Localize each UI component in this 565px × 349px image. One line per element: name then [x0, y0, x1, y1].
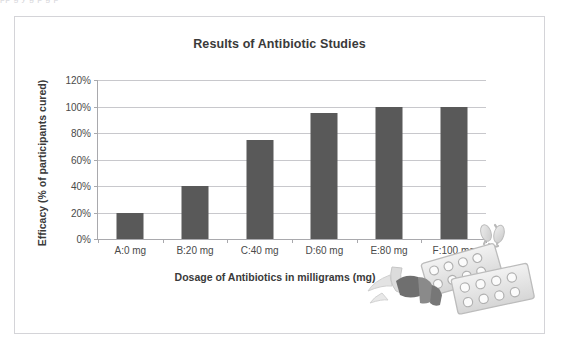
x-tick-label: D:60 mg [292, 245, 357, 256]
bar-slot [227, 80, 292, 239]
y-tick-label: 120% [65, 75, 91, 86]
bar [311, 113, 338, 239]
bar-series [98, 80, 486, 239]
bar [440, 107, 467, 240]
bar-slot [357, 80, 422, 239]
y-tick-label: 80% [71, 128, 91, 139]
x-tick-mark [227, 239, 228, 243]
cropped-text: pp g y g p g p [0, 0, 59, 3]
bar-slot [98, 80, 163, 239]
y-tick-mark [94, 80, 98, 81]
y-tick-mark [94, 107, 98, 108]
bar [376, 107, 403, 240]
x-tick-label: A:0 mg [98, 245, 163, 256]
bar [246, 140, 273, 239]
x-tick-mark [292, 239, 293, 243]
x-tick-label: B:20 mg [163, 245, 228, 256]
bar-slot [163, 80, 228, 239]
x-tick-label: F:100 mg [421, 245, 486, 256]
plot-area: 0%20%40%60%80%100%120% [98, 80, 486, 239]
x-tick-mark [163, 239, 164, 243]
bar-slot [292, 80, 357, 239]
chart-title: Results of Antibiotic Studies [15, 37, 544, 51]
y-tick-label: 0% [77, 234, 91, 245]
y-tick-label: 100% [65, 101, 91, 112]
bar [182, 186, 209, 239]
y-tick-mark [94, 160, 98, 161]
x-tick-mark [98, 239, 99, 243]
y-axis-title: Efficacy (% of participants cured) [36, 76, 48, 251]
y-tick-mark [94, 213, 98, 214]
y-tick-mark [94, 186, 98, 187]
y-tick-label: 20% [71, 207, 91, 218]
x-tick-mark [357, 239, 358, 243]
chart-container: Results of Antibiotic Studies Efficacy (… [14, 16, 545, 334]
y-tick-label: 60% [71, 154, 91, 165]
cropped-text-sliver: pp g y g p g p [0, 0, 565, 10]
x-tick-label: C:40 mg [227, 245, 292, 256]
y-tick-label: 40% [71, 181, 91, 192]
x-axis-tick-labels: A:0 mgB:20 mgC:40 mgD:60 mgE:80 mgF:100 … [98, 245, 486, 256]
x-tick-mark [421, 239, 422, 243]
bar-slot [421, 80, 486, 239]
x-tick-mark [486, 239, 487, 243]
x-axis-title: Dosage of Antibiotics in milligrams (mg) [75, 271, 475, 283]
bar [117, 213, 144, 240]
y-tick-mark [94, 133, 98, 134]
x-axis-ticks [98, 239, 486, 244]
x-tick-label: E:80 mg [357, 245, 422, 256]
